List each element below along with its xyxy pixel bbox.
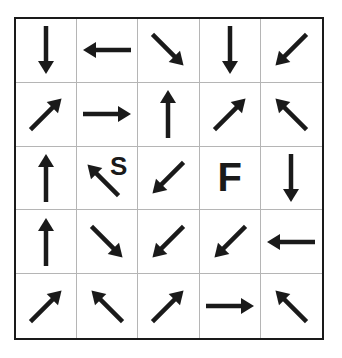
grid-cell-r3-c5[interactable]	[261, 147, 322, 211]
finish-marker: F	[200, 147, 260, 210]
grid-cell-r2-c1[interactable]	[16, 83, 77, 147]
grid-cell-r5-c1[interactable]	[16, 274, 77, 338]
grid-cell-r3-c4[interactable]: F	[200, 147, 261, 211]
arrow-down-left-icon	[142, 216, 194, 268]
arrow-down-left-icon	[142, 152, 194, 204]
grid-cell-r5-c5[interactable]	[261, 274, 322, 338]
grid-cell-r1-c4[interactable]	[200, 19, 261, 83]
arrow-up-right-icon	[20, 280, 72, 332]
arrow-right-icon	[81, 88, 133, 140]
arrow-down-icon	[265, 152, 317, 204]
arrow-down-icon	[204, 24, 256, 76]
grid-cell-r4-c2[interactable]	[77, 210, 138, 274]
grid-cell-r2-c4[interactable]	[200, 83, 261, 147]
arrow-down-right-icon	[81, 216, 133, 268]
grid-cell-r4-c3[interactable]	[138, 210, 199, 274]
start-marker: S	[110, 151, 127, 182]
grid-cell-r2-c2[interactable]	[77, 83, 138, 147]
arrow-up-left-icon	[265, 280, 317, 332]
grid-cell-r3-c1[interactable]	[16, 147, 77, 211]
grid-cell-r1-c5[interactable]	[261, 19, 322, 83]
arrow-up-right-icon	[20, 88, 72, 140]
arrow-right-icon	[204, 280, 256, 332]
grid-cell-r4-c4[interactable]	[200, 210, 261, 274]
grid-cell-r2-c3[interactable]	[138, 83, 199, 147]
grid-cell-r5-c3[interactable]	[138, 274, 199, 338]
grid-cell-r1-c3[interactable]	[138, 19, 199, 83]
arrow-down-icon	[20, 24, 72, 76]
arrow-up-right-icon	[142, 280, 194, 332]
grid-cell-r1-c1[interactable]	[16, 19, 77, 83]
arrow-up-left-icon	[81, 280, 133, 332]
arrow-up-left-icon	[265, 88, 317, 140]
arrow-left-icon	[81, 24, 133, 76]
grid-cell-r3-c3[interactable]	[138, 147, 199, 211]
arrow-up-icon	[142, 88, 194, 140]
grid-cell-r2-c5[interactable]	[261, 83, 322, 147]
arrow-down-left-icon	[204, 216, 256, 268]
grid-cell-r5-c4[interactable]	[200, 274, 261, 338]
grid-cell-r3-c2[interactable]: S	[77, 147, 138, 211]
arrow-up-icon	[20, 216, 72, 268]
arrow-down-left-icon	[265, 24, 317, 76]
grid-cell-r4-c5[interactable]	[261, 210, 322, 274]
grid-cell-r5-c2[interactable]	[77, 274, 138, 338]
arrow-maze-grid: SF	[14, 17, 324, 340]
arrow-left-icon	[265, 216, 317, 268]
arrow-up-right-icon	[204, 88, 256, 140]
grid-cell-r1-c2[interactable]	[77, 19, 138, 83]
arrow-down-right-icon	[142, 24, 194, 76]
grid-cell-r4-c1[interactable]	[16, 210, 77, 274]
arrow-up-icon	[20, 152, 72, 204]
